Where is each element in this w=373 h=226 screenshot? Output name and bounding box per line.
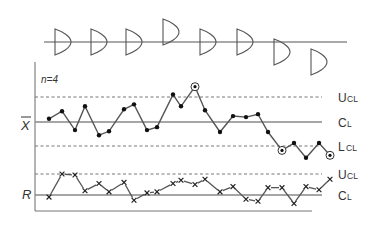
- r-point-x-icon: [155, 189, 160, 194]
- distribution-shape: [311, 49, 327, 75]
- r-point-x-icon: [171, 181, 176, 186]
- xbar-point: [47, 117, 51, 121]
- xbar-symbol: X: [20, 118, 31, 133]
- xbar-point: [266, 130, 270, 134]
- xbar-point: [132, 102, 136, 106]
- distribution-shape: [163, 19, 179, 45]
- xbar-point: [73, 128, 77, 132]
- r-point-x-icon: [328, 177, 333, 182]
- r-point-x-icon: [203, 177, 208, 182]
- xbar-point: [244, 115, 248, 119]
- axes: [35, 62, 312, 211]
- xbar-series: [47, 83, 334, 160]
- r-point-x-icon: [97, 181, 102, 186]
- distribution-row: [44, 19, 347, 75]
- r-segment: [249, 200, 255, 201]
- r-cl-label: C L: [338, 189, 352, 203]
- xbar-point: [218, 130, 222, 134]
- r-point-x-icon: [73, 173, 78, 178]
- r-segment: [184, 181, 192, 183]
- r-segment: [88, 185, 97, 190]
- r-point-x-icon: [292, 201, 297, 206]
- svg-text:CL: CL: [346, 143, 357, 153]
- xbar-ucl-label: U CL: [338, 91, 358, 105]
- svg-text:L: L: [338, 140, 345, 154]
- r-segment: [235, 189, 244, 197]
- r-point-x-icon: [218, 189, 223, 194]
- r-segment: [176, 181, 178, 182]
- xbar-point: [171, 92, 175, 96]
- r-segment: [125, 185, 132, 198]
- r-segment: [309, 187, 316, 189]
- distribution-shape: [274, 39, 290, 65]
- r-segment: [160, 185, 171, 191]
- r-series: [47, 172, 333, 206]
- xbar-cl-label: C L: [338, 116, 352, 130]
- svg-text:C: C: [338, 116, 347, 130]
- svg-text:L: L: [347, 119, 352, 129]
- r-segment: [77, 178, 84, 189]
- r-segment: [112, 184, 122, 190]
- r-segment: [198, 181, 203, 183]
- r-limits: [35, 174, 322, 195]
- xbar-point: [145, 128, 149, 132]
- xbar-point: [107, 129, 111, 133]
- r-point-x-icon: [193, 182, 198, 187]
- xbar-point: [179, 104, 183, 108]
- xbar-axis-label: X: [20, 117, 31, 133]
- r-segment: [65, 174, 72, 175]
- xbar-point: [317, 141, 321, 145]
- r-segment: [50, 177, 60, 195]
- xbar-point: [203, 108, 207, 112]
- r-point-x-icon: [107, 189, 112, 194]
- xbar-point: [155, 125, 159, 129]
- xbar-point: [292, 141, 296, 145]
- xbar-point: [280, 149, 283, 152]
- xbar-point: [328, 154, 331, 157]
- xbar-point: [193, 85, 196, 88]
- xbar-point: [60, 109, 64, 113]
- control-chart-figure: n=4 X R U CL C L L CL U CL C L: [0, 0, 373, 226]
- svg-text:U: U: [338, 168, 347, 182]
- xbar-point: [304, 156, 308, 160]
- xbar-lcl-label: L CL: [338, 140, 357, 154]
- r-point-x-icon: [231, 184, 236, 189]
- r-point-x-icon: [304, 184, 309, 189]
- sample-size-label: n=4: [41, 74, 58, 85]
- xbar-point: [256, 112, 260, 116]
- svg-text:U: U: [338, 91, 347, 105]
- r-point-x-icon: [122, 180, 127, 185]
- r-point-x-icon: [179, 178, 184, 183]
- svg-text:C: C: [338, 189, 347, 203]
- svg-text:L: L: [347, 192, 352, 202]
- svg-text:CL: CL: [347, 94, 358, 104]
- xbar-point: [231, 114, 235, 118]
- r-point-x-icon: [83, 188, 88, 193]
- r-point-x-icon: [244, 197, 249, 202]
- control-chart-svg: n=4 X R U CL C L L CL U CL C L: [0, 0, 373, 226]
- r-point-x-icon: [132, 198, 137, 203]
- xbar-point: [122, 107, 126, 111]
- r-point-x-icon: [280, 185, 285, 190]
- r-point-x-icon: [256, 199, 261, 204]
- r-segment: [207, 181, 217, 190]
- r-ucl-label: U CL: [338, 168, 358, 182]
- xbar-point: [83, 104, 87, 108]
- r-segment: [321, 181, 328, 187]
- r-axis-label: R: [22, 187, 31, 202]
- r-point-x-icon: [266, 185, 271, 190]
- r-point-x-icon: [317, 187, 322, 192]
- r-segment: [223, 188, 230, 191]
- svg-text:CL: CL: [347, 171, 358, 181]
- xbar-point: [97, 133, 101, 137]
- r-segment: [101, 185, 106, 190]
